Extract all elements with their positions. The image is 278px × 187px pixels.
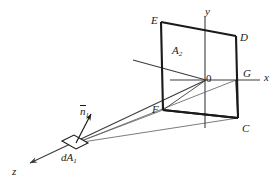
vertex-label-G: G [243,68,251,79]
vertex-label-E: E [151,15,158,26]
origin-label: 0 [206,73,212,84]
surface-label-A2: A2 [172,45,182,56]
sight-ray-group [76,22,238,143]
normal-label-n1: n1 [80,106,89,117]
edge-E-D [161,22,236,36]
base-edge-F-origin [163,80,206,110]
axis-label-x: x [264,72,269,83]
edge-D-C [236,36,238,118]
vertex-label-C: C [242,123,249,134]
radiation-view-factor-diagram: x y z 0 E D C F G A2 dA1 n1 [0,0,278,187]
edge-F-E [161,22,163,110]
edge-C-F [163,110,238,118]
element-label-dA1: dA1 [61,152,77,163]
axis-label-y: y [205,6,210,17]
surface-label-subscript: 2 [179,50,183,58]
element-label-subscript: 1 [73,157,77,165]
base-plane-group [163,80,238,118]
z-axis-line-far [133,60,206,80]
surface-label-base: A [172,44,179,56]
ray-to-C [76,118,238,143]
element-label-base: dA [61,151,73,163]
z-axis-line-near [30,80,206,163]
normal-label-subscript: 1 [86,111,90,119]
vertex-label-F: F [152,104,159,115]
diagram-canvas [0,0,278,187]
vertex-label-D: D [240,32,248,43]
axis-label-z: z [12,166,16,177]
normal-label-base: n [80,106,86,117]
